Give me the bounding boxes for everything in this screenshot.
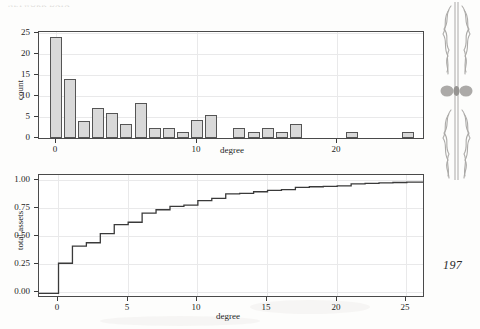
ytick-label: 10 bbox=[8, 91, 30, 100]
xtick-mark bbox=[266, 297, 267, 301]
ytick-label: 20 bbox=[8, 49, 30, 58]
xtick-label: 25 bbox=[401, 303, 410, 312]
histogram-bar bbox=[402, 132, 414, 138]
xtick-mark bbox=[196, 139, 197, 143]
histogram-bar bbox=[290, 124, 302, 138]
gridline bbox=[337, 32, 338, 138]
histogram-bar bbox=[120, 124, 132, 138]
ytick-label: 0.75 bbox=[0, 203, 30, 212]
histogram-bar bbox=[346, 132, 358, 138]
figure-total-assets-ecdf: total assets degree 0.00 0.25 0.50 0.75 … bbox=[0, 160, 430, 329]
ytick-label: 0.00 bbox=[0, 287, 30, 296]
histogram-bar bbox=[276, 132, 288, 138]
histogram-bar bbox=[64, 79, 76, 138]
histogram-bar bbox=[78, 121, 90, 138]
xtick-label: 10 bbox=[192, 145, 201, 154]
xtick-label: 0 bbox=[53, 145, 58, 154]
xtick-mark bbox=[336, 297, 337, 301]
gridline bbox=[39, 96, 423, 97]
ytick-label: 15 bbox=[8, 70, 30, 79]
decorative-fleuron-icon bbox=[437, 2, 475, 180]
page-number: 197 bbox=[443, 258, 462, 273]
ytick-label: 5 bbox=[8, 112, 30, 121]
histogram-bar bbox=[262, 128, 274, 138]
xtick-mark bbox=[127, 297, 128, 301]
ytick-label: 25 bbox=[8, 28, 30, 37]
xtick-label: 20 bbox=[332, 145, 341, 154]
ytick-label: 0 bbox=[8, 133, 30, 142]
histogram-bar bbox=[177, 132, 189, 138]
xtick-mark bbox=[196, 297, 197, 301]
xtick-label: 15 bbox=[262, 303, 271, 312]
histogram-bar bbox=[149, 128, 161, 138]
xtick-label: 0 bbox=[55, 303, 60, 312]
ytick-label: 0.50 bbox=[0, 231, 30, 240]
histogram-bar bbox=[135, 103, 147, 138]
ytick-label: 1.00 bbox=[0, 175, 30, 184]
histogram-bar bbox=[205, 115, 217, 138]
axis-label-degree-top: degree bbox=[220, 146, 244, 155]
gridline bbox=[39, 33, 423, 34]
histogram-bar bbox=[92, 108, 104, 138]
book-page: NETWORK DATA count degree 0 5 10 15 20 2… bbox=[0, 0, 480, 329]
gridline bbox=[39, 75, 423, 76]
histogram-plot-panel bbox=[38, 31, 424, 139]
histogram-bar bbox=[248, 132, 260, 138]
histogram-bar bbox=[233, 128, 245, 138]
ecdf-plot-panel bbox=[38, 174, 424, 297]
xtick-label: 10 bbox=[192, 303, 201, 312]
xtick-label: 20 bbox=[332, 303, 341, 312]
axis-label-degree-bottom: degree bbox=[216, 312, 240, 321]
xtick-mark bbox=[336, 139, 337, 143]
histogram-bar bbox=[106, 113, 118, 138]
figure-degree-histogram: count degree 0 5 10 15 20 25 bbox=[0, 0, 430, 160]
xtick-mark bbox=[57, 297, 58, 301]
histogram-bar bbox=[50, 37, 62, 138]
histogram-bar bbox=[191, 120, 203, 138]
xtick-mark bbox=[55, 139, 56, 143]
ytick-label: 0.25 bbox=[0, 259, 30, 268]
xtick-mark bbox=[405, 297, 406, 301]
ecdf-step-curve bbox=[39, 175, 424, 297]
histogram-bar bbox=[163, 128, 175, 138]
gridline bbox=[39, 54, 423, 55]
xtick-label: 5 bbox=[125, 303, 130, 312]
